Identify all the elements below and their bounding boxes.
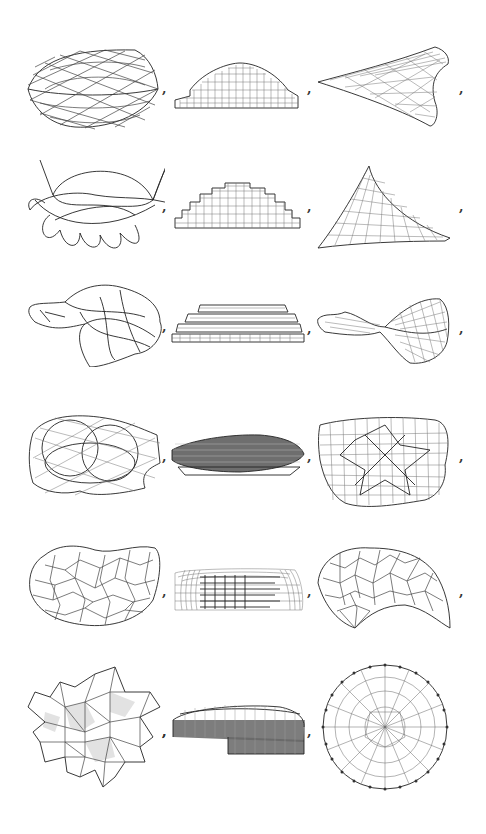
mesh-r3c1-blob-net: [25, 282, 165, 367]
separator-comma: ,: [162, 585, 167, 598]
mesh-r5c2-rounded-box: [170, 565, 308, 615]
separator-comma: ,: [307, 450, 312, 463]
mesh-r2c1-looped-curves: [25, 155, 165, 255]
mesh-r3c3-twisted-fish: [315, 287, 455, 367]
separator-comma: ,: [307, 200, 312, 213]
separator-comma: ,: [162, 450, 167, 463]
mesh-r6c1-star-mesh: [25, 662, 165, 792]
mesh-r5c1-kidney-mesh: [25, 540, 165, 630]
mesh-r5c3-paisley-mesh: [315, 543, 455, 633]
separator-comma: ,: [162, 320, 167, 333]
mesh-r2c3-tent-grid: [315, 163, 455, 251]
separator-comma: ,: [459, 82, 464, 95]
separator-comma: ,: [307, 585, 312, 598]
mesh-r3c2-stacked-discs: [170, 300, 308, 352]
separator-comma: ,: [307, 322, 312, 335]
mesh-r4c1-tangled-rings: [25, 413, 165, 503]
mesh-r6c3-circular-mesh: [315, 662, 455, 792]
separator-comma: ,: [162, 725, 167, 738]
separator-comma: ,: [459, 450, 464, 463]
mesh-r1c3-arrowhead-grid: [315, 42, 455, 130]
separator-comma: ,: [307, 82, 312, 95]
separator-comma: ,: [162, 82, 167, 95]
mesh-r4c3-distorted-grid: [315, 415, 455, 510]
mesh-r4c2-dense-disc: [170, 432, 308, 482]
separator-comma: ,: [459, 200, 464, 213]
separator-comma: ,: [459, 585, 464, 598]
mesh-r1c1-lens-net: [25, 45, 161, 130]
separator-comma: ,: [162, 200, 167, 213]
separator-comma: ,: [307, 725, 312, 738]
mesh-r6c2-ring-band: [170, 702, 308, 764]
mesh-r2c2-stepped-semicircle: [170, 180, 308, 232]
mesh-r1c2-stepped-dome: [170, 60, 308, 112]
separator-comma: ,: [459, 322, 464, 335]
